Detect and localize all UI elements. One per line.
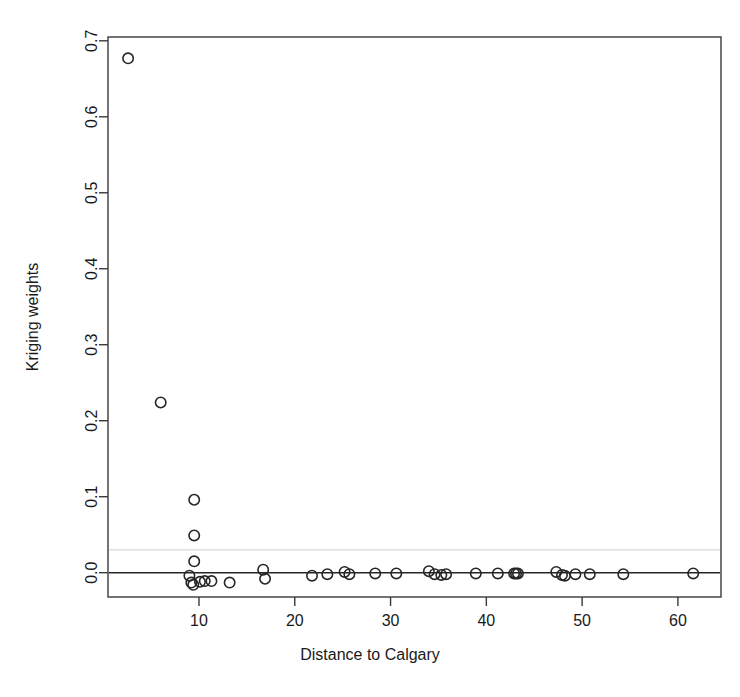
x-tick-label: 50 [573,612,591,629]
chart-figure: 0.00.10.20.30.40.50.60.7 102030405060 Di… [0,0,740,697]
data-point-marker [688,568,698,578]
x-tick-label: 40 [477,612,495,629]
data-point-marker [123,53,133,63]
data-point-marker [206,576,216,586]
x-tick-label: 20 [286,612,304,629]
y-tick-label: 0.6 [83,106,100,128]
data-point-marker [471,568,481,578]
x-tick-label: 60 [669,612,687,629]
data-point-marker [585,569,595,579]
x-axis-ticks-group: 102030405060 [190,597,687,629]
scatter-plot-svg: 0.00.10.20.30.40.50.60.7 102030405060 Di… [0,0,740,697]
x-axis-label: Distance to Calgary [300,646,440,663]
y-tick-label: 0.5 [83,182,100,204]
y-tick-label: 0.3 [83,334,100,356]
data-point-marker [493,568,503,578]
data-point-marker [391,568,401,578]
reference-lines-group [109,550,720,573]
y-axis-ticks-group: 0.00.10.20.30.40.50.60.7 [83,30,108,584]
y-axis-label: Kriging weights [24,263,41,372]
data-point-marker [188,580,198,590]
data-point-marker [224,577,234,587]
data-point-marker [189,530,199,540]
y-tick-label: 0.7 [83,30,100,52]
data-point-marker [322,569,332,579]
plot-frame [108,37,721,597]
y-tick-label: 0.1 [83,485,100,507]
y-tick-label: 0.0 [83,561,100,583]
y-tick-label: 0.2 [83,409,100,431]
x-tick-label: 10 [190,612,208,629]
data-point-marker [155,397,165,407]
data-point-marker [570,569,580,579]
data-point-marker [189,556,199,566]
y-tick-label: 0.4 [83,258,100,280]
data-point-marker [370,568,380,578]
data-point-marker [189,495,199,505]
x-tick-label: 30 [382,612,400,629]
data-points-group [123,53,699,590]
data-point-marker [618,569,628,579]
